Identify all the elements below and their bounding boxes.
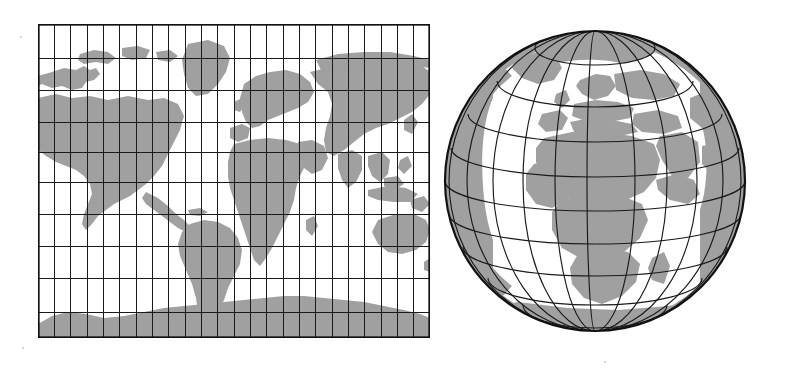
globe-panel — [438, 18, 758, 348]
paper-speck-icon — [20, 36, 22, 38]
mercator-map-panel — [38, 24, 430, 338]
globe-svg — [438, 18, 758, 348]
paper-speck-icon — [22, 347, 24, 349]
figure-root: World map and globe Mercator projection … — [0, 0, 786, 371]
paper-speck-icon — [604, 361, 606, 363]
mercator-map-svg — [38, 24, 430, 338]
